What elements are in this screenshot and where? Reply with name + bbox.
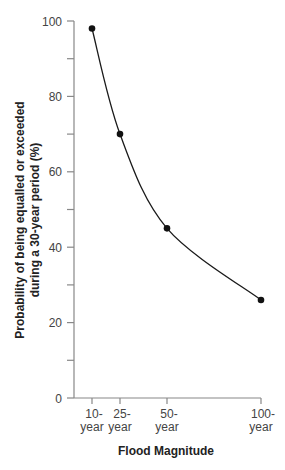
x-tick-label: year bbox=[108, 420, 131, 434]
data-point-marker bbox=[258, 297, 265, 304]
y-tick-label: 80 bbox=[49, 90, 63, 104]
y-tick-label: 0 bbox=[55, 392, 62, 406]
y-axis-title-line: during a 30-year period (%) bbox=[28, 143, 42, 298]
data-point-marker bbox=[117, 131, 124, 138]
x-tick-label: year bbox=[155, 420, 178, 434]
y-axis-title: Probability of being equalled or exceede… bbox=[13, 101, 42, 338]
y-tick-label: 40 bbox=[49, 241, 63, 255]
x-axis-title: Flood Magnitude bbox=[118, 444, 214, 458]
y-tick-label: 20 bbox=[49, 316, 63, 330]
x-axis: 10-year25-year50-year100-year bbox=[74, 398, 275, 434]
data-points bbox=[89, 25, 265, 303]
data-point-marker bbox=[164, 225, 171, 232]
x-tick-label: year bbox=[249, 420, 272, 434]
x-tick-label: 100- bbox=[251, 407, 275, 421]
x-tick-label: 50- bbox=[160, 407, 177, 421]
y-axis: 020406080100 bbox=[42, 15, 74, 406]
y-tick-label: 60 bbox=[49, 165, 63, 179]
data-point-marker bbox=[89, 25, 96, 32]
data-line bbox=[92, 29, 261, 300]
x-tick-label: year bbox=[80, 420, 103, 434]
x-tick-label: 25- bbox=[113, 407, 130, 421]
y-axis-title-line: Probability of being equalled or exceede… bbox=[13, 101, 27, 338]
x-tick-label: 10- bbox=[85, 407, 102, 421]
y-tick-label: 100 bbox=[42, 15, 62, 29]
chart: 020406080100 10-year25-year50-year100-ye… bbox=[0, 0, 285, 470]
